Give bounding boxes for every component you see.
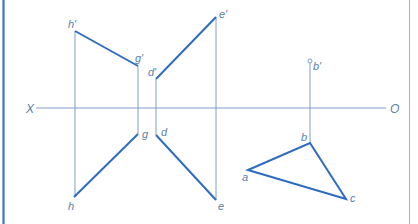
segment-d-e (156, 135, 216, 200)
projection-diagram: X O h' g' d' e' b' g d h e a b c (0, 0, 418, 224)
label-e-prime: e' (219, 8, 228, 20)
point-b-prime-marker (308, 59, 312, 63)
label-h-prime: h' (68, 18, 77, 30)
label-d: d (161, 126, 168, 138)
axis-label-x: X (25, 102, 35, 116)
segment-d-prime-e-prime (156, 17, 216, 79)
triangle-abc (248, 143, 346, 199)
label-b-prime: b' (313, 60, 322, 72)
segment-h-prime-g-prime (75, 31, 138, 66)
label-e: e (218, 200, 224, 212)
label-b: b (301, 131, 307, 143)
label-h: h (68, 200, 74, 212)
label-a: a (242, 171, 248, 183)
axis-label-o: O (390, 102, 399, 116)
label-c: c (350, 192, 356, 204)
label-d-prime: d' (148, 66, 157, 78)
segment-g-h (74, 134, 138, 197)
label-g-prime: g' (135, 52, 144, 64)
label-g: g (142, 128, 149, 140)
